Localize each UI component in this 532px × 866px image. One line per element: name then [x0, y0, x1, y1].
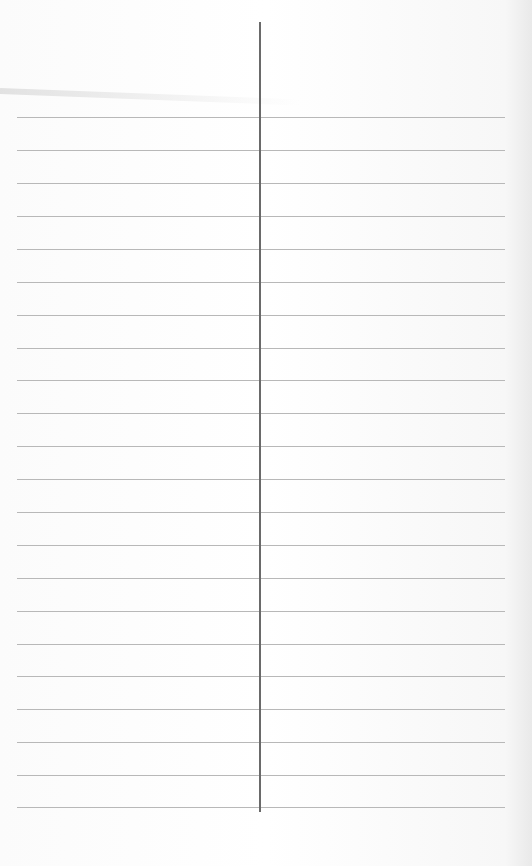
ruled-line	[17, 578, 505, 579]
paper-smudge	[0, 88, 300, 106]
ruled-line	[17, 216, 505, 217]
ruled-line	[17, 315, 505, 316]
ruled-line	[17, 676, 505, 677]
ruled-line	[17, 545, 505, 546]
ruled-line	[17, 183, 505, 184]
ruled-line	[17, 807, 505, 808]
ruled-line	[17, 249, 505, 250]
ruled-line	[17, 742, 505, 743]
ruled-line	[17, 775, 505, 776]
ruled-line	[17, 709, 505, 710]
ruled-line	[17, 348, 505, 349]
ruled-line	[17, 644, 505, 645]
lined-paper	[0, 0, 532, 866]
ruled-line	[17, 446, 505, 447]
vertical-divider-line	[259, 22, 261, 812]
ruled-line	[17, 150, 505, 151]
ruled-line	[17, 282, 505, 283]
ruled-line	[17, 117, 505, 118]
ruled-line	[17, 611, 505, 612]
ruled-line	[17, 413, 505, 414]
ruled-line	[17, 479, 505, 480]
ruled-line	[17, 512, 505, 513]
ruled-line	[17, 380, 505, 381]
